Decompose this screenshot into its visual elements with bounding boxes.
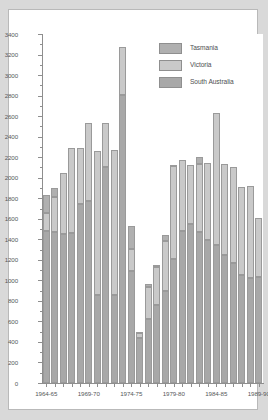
y-axis-tick	[38, 280, 42, 281]
bar-segment	[255, 277, 262, 383]
y-axis-label: 2600	[5, 113, 18, 120]
bar-segment	[221, 255, 228, 383]
legend-label-victoria: Victoria	[190, 61, 211, 68]
y-axis-minor-tick	[40, 147, 42, 148]
bar-stack	[60, 34, 67, 383]
y-axis-tick	[38, 301, 42, 302]
x-axis-tick	[140, 384, 141, 387]
bar-stack	[102, 34, 109, 383]
bar-segment	[60, 234, 67, 383]
x-axis-label: 1989-90	[248, 390, 268, 397]
bar-segment	[153, 305, 160, 383]
x-axis-tick	[208, 384, 209, 387]
x-axis-tick	[225, 384, 226, 387]
y-axis-minor-tick	[40, 85, 42, 86]
bar-segment	[128, 271, 135, 383]
bar-stack	[43, 34, 50, 383]
legend-swatch-south-australia	[159, 77, 182, 88]
y-axis-label: 200	[8, 359, 18, 366]
x-axis-label: 1979-80	[163, 390, 185, 397]
x-axis-tick	[157, 384, 158, 387]
y-axis-label: 2200	[5, 154, 18, 161]
bar-segment	[213, 245, 220, 383]
bar-segment	[196, 232, 203, 383]
y-axis-tick	[38, 362, 42, 363]
y-axis-label: 1000	[5, 277, 18, 284]
y-axis-minor-tick	[40, 209, 42, 210]
bar-segment	[221, 164, 228, 254]
y-axis-minor-tick	[40, 188, 42, 189]
x-axis-tick	[55, 384, 56, 387]
bar-stack	[136, 34, 143, 383]
bar-segment	[162, 241, 169, 290]
bar-segment	[247, 278, 254, 383]
y-axis-minor-tick	[40, 270, 42, 271]
y-axis-label: 3000	[5, 72, 18, 79]
bar-segment	[145, 287, 152, 320]
bar-segment	[85, 123, 92, 201]
bar-segment	[68, 148, 75, 233]
y-axis-label: 0	[15, 380, 18, 387]
y-axis-tick	[38, 116, 42, 117]
legend-item-victoria: Victoria	[159, 58, 257, 75]
y-axis-label: 600	[8, 318, 18, 325]
y-axis-tick	[38, 219, 42, 220]
x-axis-tick	[216, 384, 217, 387]
y-axis-minor-tick	[40, 311, 42, 312]
y-axis-minor-tick	[40, 126, 42, 127]
bar-segment	[43, 195, 50, 212]
y-axis-label: 1800	[5, 195, 18, 202]
y-axis-line	[42, 34, 43, 384]
bar-segment	[179, 231, 186, 383]
x-axis-tick	[63, 384, 64, 387]
bar-segment	[170, 165, 177, 167]
x-axis-tick	[46, 384, 47, 387]
legend-item-south-australia: South Australia	[159, 75, 257, 92]
bar-stack	[85, 34, 92, 383]
x-axis-tick	[174, 384, 175, 387]
bar-segment	[51, 232, 58, 383]
bar-segment	[94, 295, 101, 383]
y-axis-tick	[38, 55, 42, 56]
y-axis-tick	[38, 198, 42, 199]
x-axis-tick	[106, 384, 107, 387]
y-axis-tick	[38, 260, 42, 261]
x-axis-tick	[242, 384, 243, 387]
bar-segment	[128, 226, 135, 249]
y-axis-tick	[38, 178, 42, 179]
x-axis-tick	[191, 384, 192, 387]
bar-segment	[153, 265, 160, 267]
bar-segment	[213, 113, 220, 245]
bar-stack	[94, 34, 101, 383]
bar-segment	[162, 291, 169, 383]
bar-segment	[230, 167, 237, 262]
legend-swatch-victoria	[159, 60, 182, 71]
y-axis-minor-tick	[40, 229, 42, 230]
bar-segment	[102, 123, 109, 167]
x-axis-tick	[199, 384, 200, 387]
bar-segment	[111, 295, 118, 383]
y-axis-label: 3200	[5, 51, 18, 58]
y-axis-label: 2800	[5, 92, 18, 99]
bar-segment	[238, 275, 245, 383]
x-axis-tick	[123, 384, 124, 387]
bar-segment	[128, 249, 135, 272]
bar-segment	[94, 151, 101, 295]
x-axis-tick	[114, 384, 115, 387]
y-axis-label: 2000	[5, 174, 18, 181]
bar-segment	[255, 218, 262, 278]
x-axis-tick	[89, 384, 90, 387]
y-axis-tick	[38, 96, 42, 97]
bar-segment	[204, 163, 211, 240]
bar-segment	[187, 165, 194, 224]
x-axis-label: 1984-85	[205, 390, 227, 397]
bar-segment	[238, 187, 245, 275]
x-axis-label: 1964-65	[35, 390, 57, 397]
y-axis-label: 1200	[5, 256, 18, 263]
y-axis-minor-tick	[40, 332, 42, 333]
y-axis-minor-tick	[40, 167, 42, 168]
bar-segment	[51, 188, 58, 197]
x-axis-tick	[259, 384, 260, 387]
y-axis-minor-tick	[40, 65, 42, 66]
legend-label-south-australia: South Australia	[190, 78, 234, 85]
